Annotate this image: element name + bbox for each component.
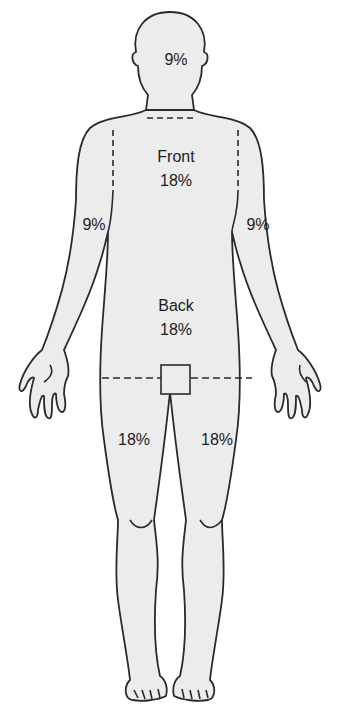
- body-outline-figure: [0, 0, 340, 713]
- body-silhouette: [19, 110, 320, 701]
- back-title-label: Back: [158, 296, 194, 315]
- front-percent-label: 18%: [160, 171, 192, 190]
- left-leg-percent-label: 18%: [118, 430, 150, 449]
- left-arm-percent-label: 9%: [82, 215, 105, 234]
- front-title-label: Front: [157, 147, 194, 166]
- groin-square: [161, 365, 190, 394]
- right-leg-percent-label: 18%: [201, 430, 233, 449]
- head-percent-label: 9%: [164, 50, 187, 69]
- right-arm-percent-label: 9%: [246, 215, 269, 234]
- back-percent-label: 18%: [160, 320, 192, 339]
